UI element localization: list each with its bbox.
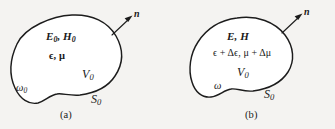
normal-vector-label-b: n	[304, 7, 310, 17]
normal-vector-arrowhead-a	[125, 16, 133, 22]
omega-label-b: ω	[214, 81, 222, 92]
normal-vector-arrowhead-b	[295, 14, 303, 20]
field-label-a: E0, H0	[46, 31, 76, 44]
panel-a-geometry	[0, 0, 168, 129]
field-label-b: E, H	[227, 31, 249, 42]
volume-label-a: V0	[82, 68, 94, 82]
caption-b: (b)	[245, 110, 258, 121]
material-label-b: ϵ + Δϵ, μ + Δμ	[213, 48, 271, 58]
volume-boundary-curve-a	[11, 15, 121, 103]
normal-vector-label-a: n	[134, 9, 140, 19]
panel-a: E0, H0 ϵ, μ V0 S0 ω0 n (a)	[0, 0, 168, 129]
caption-a: (a)	[60, 110, 72, 121]
normal-vector-shaft-a	[112, 19, 129, 35]
omega-label-a: ω0	[16, 83, 27, 94]
surface-label-a: S0	[91, 93, 101, 107]
material-label-a: ϵ, μ	[49, 51, 65, 62]
panel-b: E, H ϵ + Δϵ, μ + Δμ V0 S0 ω n (b)	[167, 0, 335, 129]
normal-vector-shaft-b	[282, 17, 299, 33]
volume-label-b: V0	[237, 66, 249, 80]
surface-label-b: S0	[264, 88, 274, 102]
figure-container: E0, H0 ϵ, μ V0 S0 ω0 n (a) E, H ϵ + Δϵ, …	[0, 0, 335, 129]
